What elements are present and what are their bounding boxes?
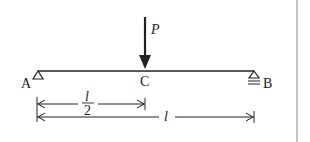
load-arrow-icon (139, 17, 151, 69)
point-label-b: B (263, 76, 272, 91)
roller-support-icon (248, 71, 260, 84)
point-label-a: A (21, 76, 32, 91)
point-label-c: C (140, 74, 149, 89)
half-length-dimension (37, 98, 145, 110)
full-length-dimension (37, 111, 254, 123)
beam-diagram: P A C B l 2 l (0, 0, 310, 142)
full-length-label: l (164, 109, 168, 124)
load-label: P (150, 22, 160, 37)
pin-support-icon (33, 71, 43, 79)
fraction-denominator: 2 (84, 103, 91, 118)
fraction-numerator: l (85, 89, 89, 104)
